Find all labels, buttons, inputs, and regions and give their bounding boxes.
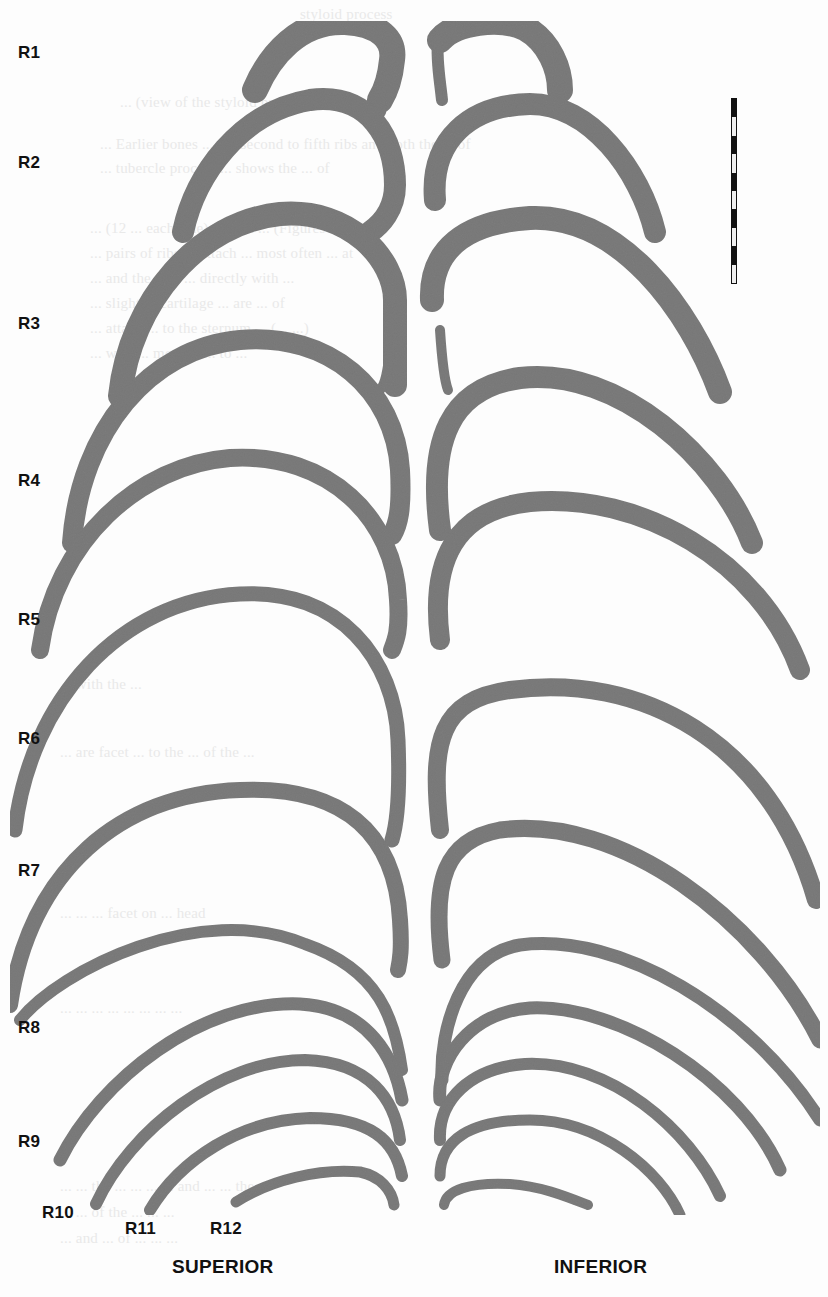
rib-label-r9: R9: [18, 1132, 40, 1152]
rib-label-r10: R10: [42, 1203, 74, 1223]
scale-segment: [732, 209, 736, 227]
rib-r8-superior: [20, 930, 402, 1070]
rib-label-r7: R7: [18, 861, 40, 881]
scale-segment: [732, 265, 736, 283]
view-label-superior: SUPERIOR: [172, 1256, 274, 1278]
rib-r11-superior: [150, 1118, 402, 1210]
scale-segment: [732, 173, 736, 191]
scale-segment: [732, 246, 736, 264]
scale-segment: [732, 228, 736, 246]
scale-segment: [732, 136, 736, 154]
rib-label-r8: R8: [18, 1018, 40, 1038]
rib-r1-inferior: [437, 22, 560, 100]
rib-label-r3: R3: [18, 314, 40, 334]
rib-r11-inferior: [440, 1120, 680, 1215]
rib-r7-inferior: [439, 828, 820, 1040]
rib-label-r4: R4: [18, 471, 40, 491]
view-label-inferior: INFERIOR: [554, 1256, 647, 1278]
ribs-drawing: [0, 0, 828, 1297]
scale-segment: [732, 117, 736, 135]
rib-label-r5: R5: [18, 610, 40, 630]
rib-label-r11: R11: [125, 1219, 156, 1239]
scale-segment: [732, 99, 736, 117]
rib-label-r1: R1: [18, 43, 40, 63]
rib-label-r6: R6: [18, 729, 40, 749]
rib-r6-inferior: [437, 687, 816, 900]
scale-bar: [731, 98, 737, 284]
rib-figure: styloid process ... (view of the styloid…: [0, 0, 828, 1297]
scale-segment: [732, 191, 736, 209]
scale-segment: [732, 154, 736, 172]
rib-label-r12: R12: [210, 1219, 242, 1239]
rib-r12-superior: [236, 1171, 394, 1205]
rib-label-r2: R2: [18, 153, 40, 173]
rib-r3-inferior: [432, 218, 720, 392]
rib-r12-inferior: [444, 1184, 588, 1205]
